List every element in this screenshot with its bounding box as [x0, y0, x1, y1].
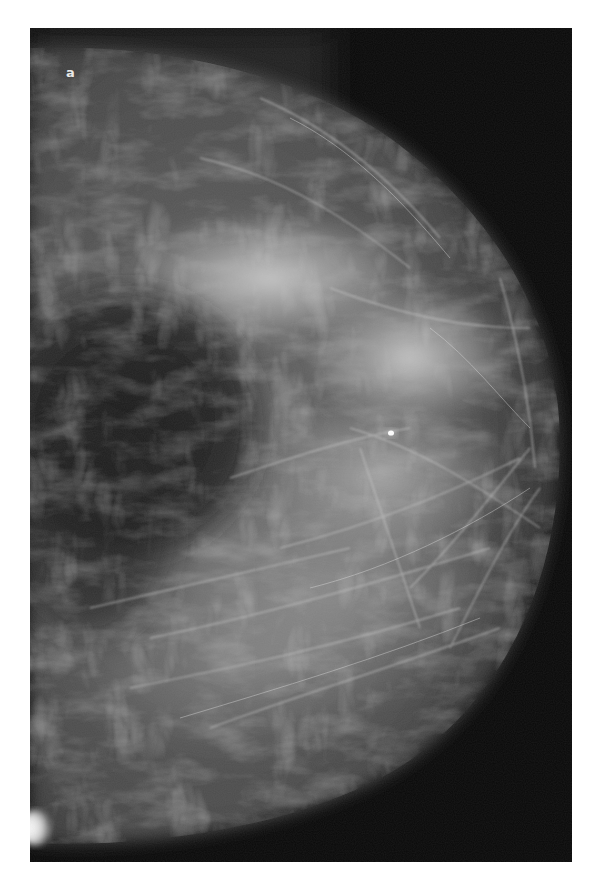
mammogram-image	[30, 28, 572, 862]
mammogram-rendering	[30, 28, 572, 862]
panel-label: a	[66, 66, 75, 79]
page: a	[0, 0, 602, 891]
